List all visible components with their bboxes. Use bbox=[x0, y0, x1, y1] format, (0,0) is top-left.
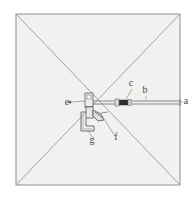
hub-bore bbox=[87, 95, 91, 99]
label-b: b bbox=[143, 84, 148, 95]
technical-diagram: a b c e f g bbox=[0, 0, 196, 204]
label-e: e bbox=[65, 96, 70, 107]
rod-collar-part bbox=[118, 100, 128, 105]
figure-page: a b c e f g bbox=[0, 0, 196, 204]
label-g: g bbox=[90, 134, 95, 145]
label-c: c bbox=[129, 77, 134, 88]
rod-collar-flange-left bbox=[115, 99, 119, 106]
hub-slider bbox=[86, 107, 93, 118]
label-a: a bbox=[184, 95, 189, 106]
rod-collar-flange-right bbox=[128, 100, 131, 106]
